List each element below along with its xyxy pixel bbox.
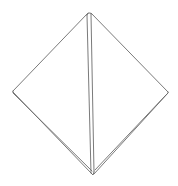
pyramid-drawing [0, 0, 178, 186]
ridge-line-right [91, 14, 94, 172]
edge-top-right [91, 13, 168, 92]
bottom-apex [91, 172, 94, 175]
right-corner [165, 92, 168, 96]
edge-top-left [13, 13, 88, 91]
edge-bottom-right-inner [95, 96, 165, 170]
ridge-line-left [87, 15, 91, 173]
sketch-canvas [0, 0, 178, 186]
edge-bottom-left-inner [15, 95, 92, 171]
